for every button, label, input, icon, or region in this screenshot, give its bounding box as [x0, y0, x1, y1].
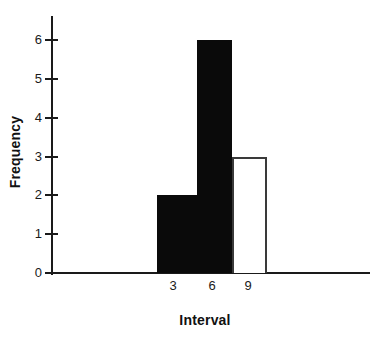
- x-tick-label: 9: [238, 279, 258, 292]
- y-tick-label: 6: [28, 33, 42, 46]
- y-tick-mark: [45, 156, 58, 158]
- y-axis-title: Frequency: [4, 92, 26, 212]
- y-tick-label: 3: [28, 150, 42, 163]
- histogram-chart: 6543210 369 Frequency Interval: [0, 0, 386, 341]
- y-tick-mark: [45, 194, 58, 196]
- x-tick-label: 3: [163, 279, 183, 292]
- y-tick-mark: [45, 39, 58, 41]
- y-tick-label: 0: [28, 266, 42, 279]
- bar-9: [232, 157, 267, 273]
- y-tick-label: 5: [28, 72, 42, 85]
- bar-6: [197, 40, 232, 273]
- y-tick-label: 2: [28, 188, 42, 201]
- y-axis-line: [51, 16, 53, 275]
- x-tick-label: 6: [202, 279, 222, 292]
- x-axis-title: Interval: [140, 312, 270, 328]
- y-tick-mark: [45, 78, 58, 80]
- y-tick-mark: [45, 117, 58, 119]
- y-tick-label: 1: [28, 227, 42, 240]
- y-tick-mark: [45, 272, 58, 274]
- y-tick-mark: [45, 233, 58, 235]
- y-tick-label: 4: [28, 111, 42, 124]
- bar-3: [157, 195, 197, 273]
- y-axis-title-text: Frequency: [7, 116, 23, 189]
